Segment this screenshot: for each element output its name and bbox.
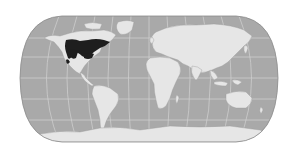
map-svg (0, 0, 292, 156)
world-map (0, 0, 292, 156)
australia (226, 91, 252, 108)
